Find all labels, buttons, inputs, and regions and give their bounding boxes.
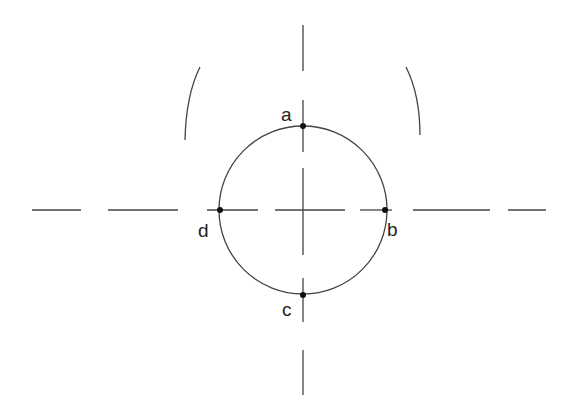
label-b: b	[387, 219, 398, 240]
label-a: a	[281, 104, 292, 125]
outer-arc-right	[406, 67, 420, 135]
outer-arc-left	[185, 67, 200, 140]
label-d: d	[198, 220, 209, 241]
diagram-canvas: a b c d	[0, 0, 565, 410]
point-c	[300, 292, 306, 298]
point-a	[300, 123, 306, 129]
point-b	[382, 207, 388, 213]
label-c: c	[282, 299, 292, 320]
point-d	[217, 207, 223, 213]
